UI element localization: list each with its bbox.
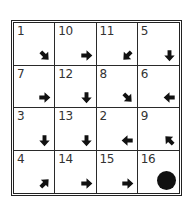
arrow-se-icon [38, 49, 51, 62]
arrow-w-icon [121, 134, 134, 147]
cell-number: 9 [141, 110, 148, 122]
grid-cell-1[interactable]: 1 [14, 23, 55, 66]
arrow-w-icon [163, 91, 176, 104]
arrow-s-icon [80, 134, 93, 147]
grid-cell-7[interactable]: 7 [14, 66, 55, 109]
grid-cell-4[interactable]: 4 [14, 151, 55, 194]
cell-number: 14 [58, 153, 72, 165]
cell-number: 15 [100, 153, 114, 165]
cell-number: 3 [17, 110, 24, 122]
arrow-ne-icon [38, 177, 51, 190]
grid-cell-14[interactable]: 14 [55, 151, 96, 194]
puzzle-board: 1 10 11 5 7 12 8 6 3 13 2 9 4 14 15 16 [11, 20, 182, 196]
arrow-s-icon [163, 49, 176, 62]
cell-number: 8 [100, 68, 107, 80]
arrow-se-icon [121, 91, 134, 104]
cell-number: 13 [58, 110, 72, 122]
grid-cell-5[interactable]: 5 [138, 23, 179, 66]
arrow-sw-icon [121, 49, 134, 62]
grid-cell-10[interactable]: 10 [55, 23, 96, 66]
cell-number: 4 [17, 153, 24, 165]
cell-number: 2 [100, 110, 107, 122]
cell-number: 12 [58, 68, 72, 80]
arrow-s-icon [80, 91, 93, 104]
grid-cell-15[interactable]: 15 [97, 151, 138, 194]
cell-number: 10 [58, 25, 72, 37]
grid-cell-8[interactable]: 8 [97, 66, 138, 109]
arrow-e-icon [80, 177, 93, 190]
cell-number: 11 [100, 25, 114, 37]
cell-number: 6 [141, 68, 148, 80]
grid-cell-9[interactable]: 9 [138, 108, 179, 151]
cell-number: 1 [17, 25, 24, 37]
grid-cell-13[interactable]: 13 [55, 108, 96, 151]
grid-cell-16[interactable]: 16 [138, 151, 179, 194]
goal-dot-icon [157, 171, 176, 190]
arrow-e-icon [38, 91, 51, 104]
cell-number: 16 [141, 153, 155, 165]
arrow-e-icon [80, 49, 93, 62]
grid-cell-6[interactable]: 6 [138, 66, 179, 109]
cell-number: 5 [141, 25, 148, 37]
grid-cell-2[interactable]: 2 [97, 108, 138, 151]
grid-cell-12[interactable]: 12 [55, 66, 96, 109]
cell-number: 7 [17, 68, 24, 80]
arrow-e-icon [121, 177, 134, 190]
grid-cell-3[interactable]: 3 [14, 108, 55, 151]
grid-cell-11[interactable]: 11 [97, 23, 138, 66]
arrow-s-icon [38, 134, 51, 147]
arrow-nw-icon [163, 134, 176, 147]
